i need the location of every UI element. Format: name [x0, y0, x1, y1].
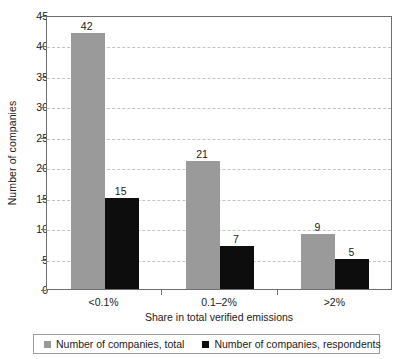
y-axis-title: Number of companies	[4, 16, 20, 290]
bar-value-label: 42	[50, 20, 124, 32]
legend-item-respondents[interactable]: Number of companies, respondents	[202, 338, 380, 350]
x-axis-title: Share in total verified emissions	[46, 311, 392, 324]
legend-label-respondents: Number of companies, respondents	[214, 338, 380, 350]
y-tick-mark	[41, 290, 46, 291]
bar-value-label: 21	[165, 148, 239, 160]
legend-item-total[interactable]: Number of companies, total	[44, 338, 184, 350]
chart-legend: Number of companies, total Number of com…	[33, 334, 380, 354]
bar-value-label: 7	[199, 233, 273, 245]
legend-swatch-respondents-icon	[202, 341, 209, 348]
bar-value-label: 9	[280, 221, 354, 233]
bar-respondents	[105, 198, 139, 289]
bar-total	[71, 33, 105, 289]
bar-total	[301, 234, 335, 289]
x-tick-mark	[277, 290, 278, 295]
bar-respondents	[335, 259, 369, 289]
x-tick-mark	[161, 290, 162, 295]
legend-swatch-total-icon	[44, 341, 51, 348]
legend-label-total: Number of companies, total	[56, 338, 184, 350]
bar-total	[186, 161, 220, 289]
x-tick-label: 0.1–2%	[164, 296, 274, 309]
bar-value-label: 5	[314, 246, 388, 258]
bar-value-label: 15	[84, 185, 158, 197]
bar-chart-figure: Number of companies 051015202530354045 4…	[0, 0, 400, 359]
bar-respondents	[220, 246, 254, 289]
x-tick-label: >2%	[279, 296, 389, 309]
x-tick-label: <0.1%	[49, 296, 159, 309]
